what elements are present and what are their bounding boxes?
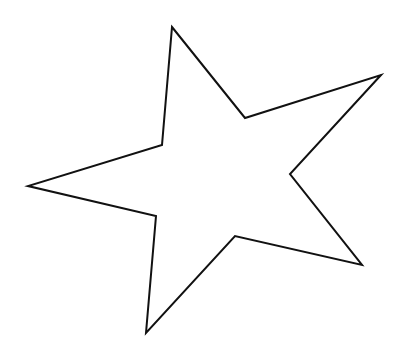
star-icon (28, 27, 381, 333)
drawing-canvas (0, 0, 400, 357)
star-graphic (0, 0, 400, 357)
